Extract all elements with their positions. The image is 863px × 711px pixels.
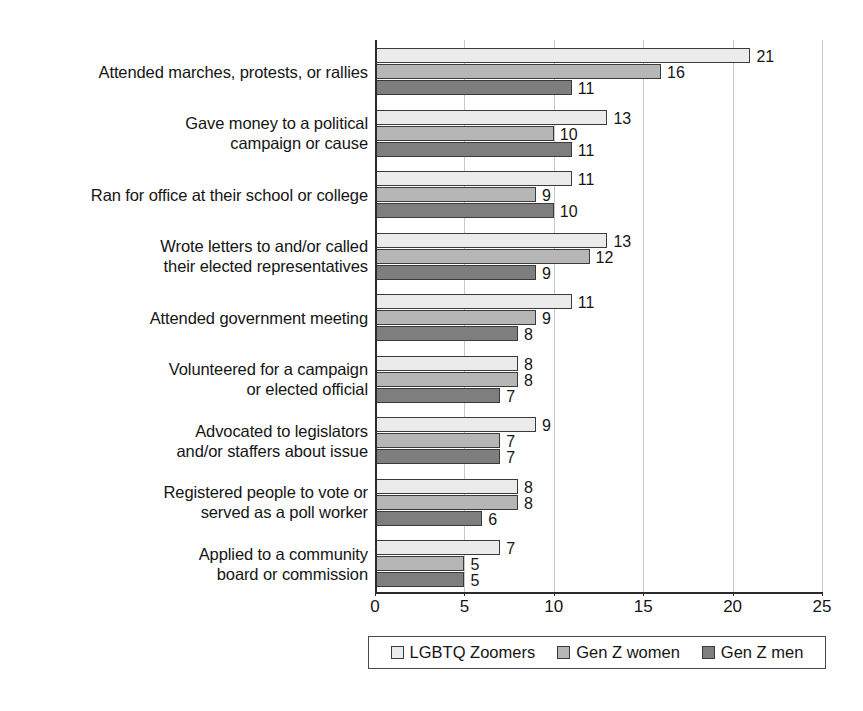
category-label: Registered people to vote or served as a… <box>164 482 369 522</box>
bar <box>375 110 607 125</box>
category-label: Wrote letters to and/or called their ele… <box>160 236 368 276</box>
bar-value-label: 9 <box>542 188 551 203</box>
legend-item[interactable]: Gen Z men <box>702 643 804 662</box>
x-tick-label: 0 <box>370 597 379 617</box>
legend-label: LGBTQ Zoomers <box>410 643 536 662</box>
bar-value-label: 8 <box>524 357 533 372</box>
bar <box>375 540 500 555</box>
bar-value-label: 16 <box>667 65 685 80</box>
bar <box>375 479 518 494</box>
gridline <box>822 40 823 592</box>
bar-value-label: 11 <box>578 172 595 187</box>
x-tick-label: 10 <box>544 597 563 617</box>
bar <box>375 417 536 432</box>
x-tick-mark <box>375 592 376 596</box>
bar-value-label: 9 <box>542 418 551 433</box>
bar <box>375 310 536 325</box>
bar-value-label: 11 <box>578 81 595 96</box>
bar-value-label: 7 <box>506 450 515 465</box>
bar-value-label: 10 <box>560 127 578 142</box>
x-tick-label: 15 <box>634 597 653 617</box>
x-tick-mark <box>554 592 555 596</box>
bar <box>375 265 536 280</box>
bar <box>375 372 518 387</box>
bar <box>375 142 572 157</box>
category-label: Applied to a community board or commissi… <box>199 544 368 584</box>
bar-value-label: 10 <box>560 204 578 219</box>
bar-value-label: 5 <box>470 573 479 588</box>
bar <box>375 233 607 248</box>
bar-value-label: 9 <box>542 266 551 281</box>
bar <box>375 294 572 309</box>
category-label: Volunteered for a campaign or elected of… <box>169 359 368 399</box>
bar-value-label: 11 <box>578 143 595 158</box>
bar <box>375 126 554 141</box>
bar <box>375 572 464 587</box>
legend-label: Gen Z men <box>721 643 804 662</box>
bar-value-label: 7 <box>506 389 515 404</box>
bar <box>375 433 500 448</box>
x-axis-line <box>375 592 823 594</box>
bar <box>375 171 572 186</box>
category-label: Advocated to legislators and/or staffers… <box>177 421 368 461</box>
bar-value-label: 8 <box>524 480 533 495</box>
bar-value-label: 13 <box>613 234 631 249</box>
bar-value-label: 7 <box>506 541 515 556</box>
bar <box>375 356 518 371</box>
bar <box>375 511 482 526</box>
legend-swatch-icon <box>702 646 715 659</box>
gridline <box>643 40 644 592</box>
bar-value-label: 11 <box>578 295 595 310</box>
bar <box>375 80 572 95</box>
bar <box>375 249 590 264</box>
bar <box>375 64 661 79</box>
category-label: Attended marches, protests, or rallies <box>99 62 369 82</box>
bar <box>375 187 536 202</box>
bar <box>375 556 464 571</box>
bar-value-label: 13 <box>613 111 631 126</box>
legend-swatch-icon <box>391 646 404 659</box>
legend-item[interactable]: LGBTQ Zoomers <box>391 643 536 662</box>
bar-value-label: 7 <box>506 434 515 449</box>
gridline <box>733 40 734 592</box>
bar-value-label: 8 <box>524 327 533 342</box>
bar-value-label: 9 <box>542 311 551 326</box>
bar-value-label: 5 <box>470 557 479 572</box>
bar-chart: Attended marches, protests, or ralliesGa… <box>0 0 863 711</box>
plot-area: 21161113101111910131291198887977886755 <box>375 40 822 592</box>
chart-legend: LGBTQ ZoomersGen Z womenGen Z men <box>368 636 826 669</box>
x-tick-label: 20 <box>723 597 742 617</box>
x-tick-mark <box>822 592 823 596</box>
bar <box>375 326 518 341</box>
category-label: Gave money to a political campaign or ca… <box>185 113 368 153</box>
bar-value-label: 6 <box>488 512 497 527</box>
x-tick-mark <box>464 592 465 596</box>
bar <box>375 449 500 464</box>
legend-label: Gen Z women <box>576 643 680 662</box>
bar <box>375 495 518 510</box>
bar <box>375 388 500 403</box>
bar-value-label: 8 <box>524 496 533 511</box>
x-tick-label: 25 <box>813 597 832 617</box>
bar <box>375 48 750 63</box>
x-tick-label: 5 <box>460 597 469 617</box>
y-axis-line <box>375 40 377 593</box>
legend-swatch-icon <box>557 646 570 659</box>
category-label: Ran for office at their school or colleg… <box>91 185 368 205</box>
legend-item[interactable]: Gen Z women <box>557 643 680 662</box>
bar-value-label: 8 <box>524 373 533 388</box>
bar <box>375 203 554 218</box>
bar-value-label: 21 <box>756 49 774 64</box>
x-tick-mark <box>733 592 734 596</box>
category-label: Attended government meeting <box>150 308 368 328</box>
bar-value-label: 12 <box>596 250 614 265</box>
x-tick-mark <box>643 592 644 596</box>
